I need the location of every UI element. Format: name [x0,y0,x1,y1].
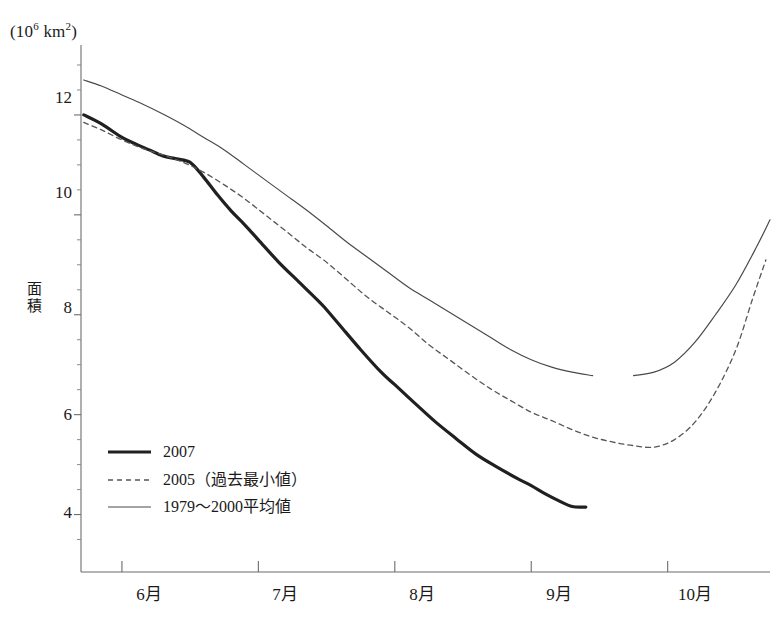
series-line-1979-2000-average [634,220,770,376]
legend-swatches [108,452,151,507]
y-minor-ticks [77,65,81,540]
x-major-ticks [122,561,668,572]
chart-plot-svg [0,0,774,621]
chart-figure: (106 km2) 面 積 12 10 8 6 4 6月 7月 8月 9月 10… [0,0,774,621]
series-line-2007 [84,115,586,507]
series-line-1979-2000-average [84,80,593,376]
series-line-2005 [84,122,766,447]
y-major-ticks [74,115,81,515]
series-lines [84,80,770,507]
axes-group [81,45,770,572]
